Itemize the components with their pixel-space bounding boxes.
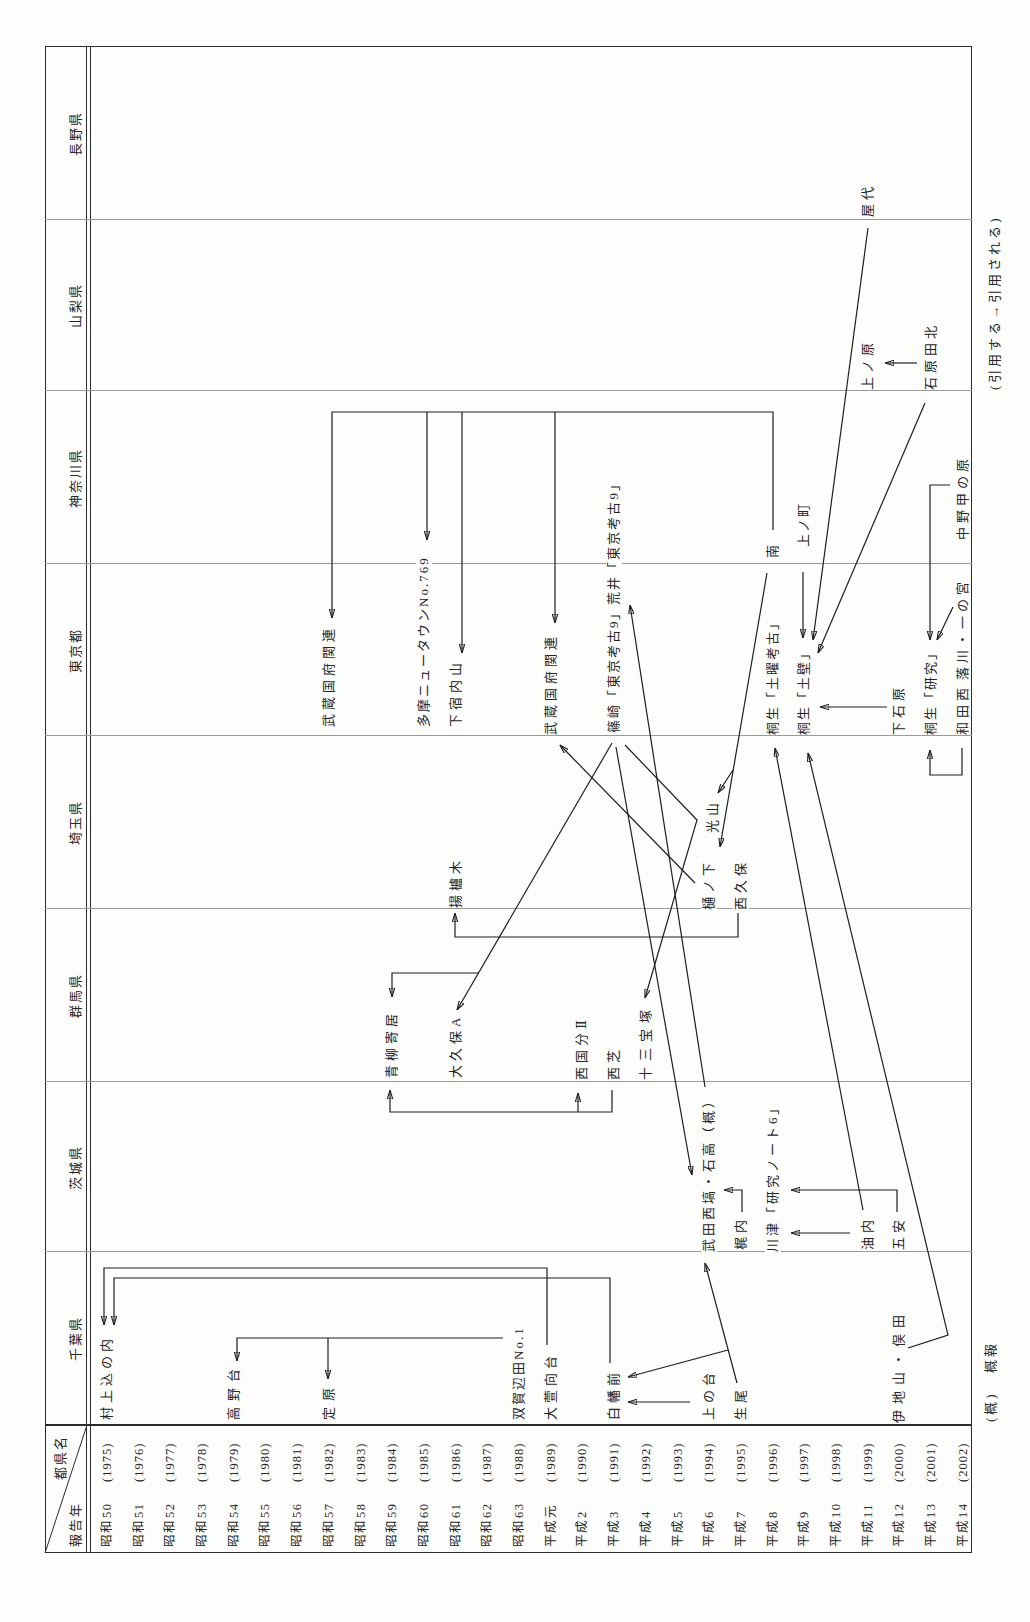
citation-arrow [455, 913, 738, 937]
citation-arrow [560, 745, 695, 883]
citation-arrow [332, 412, 773, 618]
citation-arrow [808, 753, 948, 1348]
citation-arrow [237, 1338, 503, 1361]
citation-arrow [390, 1090, 612, 1112]
citation-arrow [791, 1190, 897, 1212]
citation-arrow [724, 1190, 742, 1212]
citation-table-page: 都県名 報告年 千葉県 茨城県 群馬県 埼玉県 東京都 神奈川県 山梨県 長野県… [0, 0, 1030, 1622]
citation-arrow [616, 747, 692, 1175]
citation-arrow [720, 573, 767, 847]
citation-arrow [930, 485, 950, 640]
citation-arrow [625, 745, 697, 998]
citation-arrow [630, 605, 705, 1087]
citation-arrow [457, 743, 612, 1010]
citation-arrow [813, 228, 868, 640]
citation-arrow [818, 403, 925, 653]
citation-arrow [930, 748, 962, 775]
citation-arrow [104, 1268, 547, 1345]
citation-arrow [937, 607, 953, 640]
citation-arrow [705, 1263, 737, 1383]
citation-arrow [628, 1350, 728, 1377]
citation-arrow [114, 1278, 610, 1363]
citation-arrows-layer [0, 0, 1030, 1622]
citation-arrow [775, 748, 863, 1210]
